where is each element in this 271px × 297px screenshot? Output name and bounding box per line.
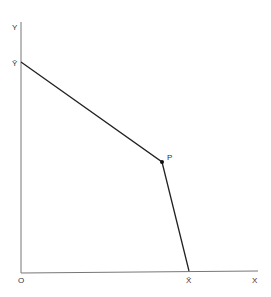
diagram-canvas: Y Ȳ P O X̄ X [0,0,271,297]
x-axis [21,271,258,273]
y-axis-label: Y [12,23,18,32]
point-p-label: P [167,153,172,162]
y-bar-label: Ȳ [12,59,18,68]
x-axis-label: X [252,276,258,285]
point-p-marker [160,160,164,164]
x-bar-label: X̄ [186,276,192,285]
origin-label: O [18,276,24,285]
frontier-line [21,62,189,271]
